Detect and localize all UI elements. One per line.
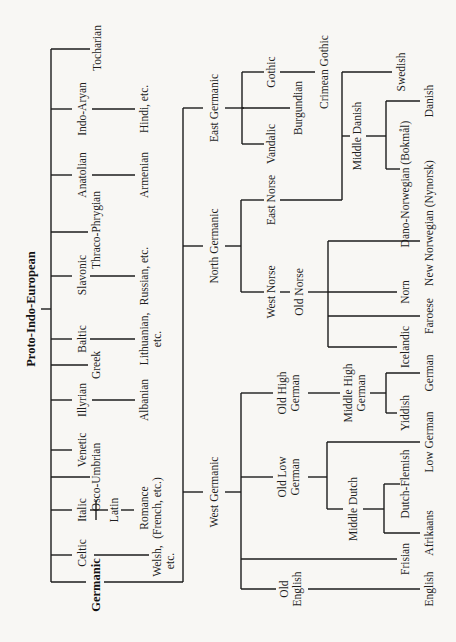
label-illyrian: Illyrian [76,383,89,417]
label-middle-high-german: Middle High [342,363,355,422]
label-faroese: Faroese [423,298,435,334]
label-norn: Norn [399,280,411,304]
label-romance-french: (French, etc.) [151,477,164,539]
label-english: English [423,571,436,606]
label-east-germanic: East Germanic [208,74,220,142]
label-baltic: Baltic [76,325,88,352]
label-welsh: Welsh, [151,545,164,576]
label-gothic: Gothic [265,56,277,87]
label-middle-danish: Middle Danish [351,101,363,170]
label-welsh-etc: etc. [164,553,176,569]
label-middle-high-german-2: German [355,374,367,411]
label-slavonic: Slavonic [76,255,88,295]
label-west-norse: West Norse [265,265,277,318]
label-hindi: Hindi, etc. [138,85,151,133]
language-family-tree: Proto-Indo-European Tocharian Indo-Aryan… [0,0,456,642]
label-armenian: Armenian [138,152,150,198]
label-lithuanian-etc: etc. [151,331,163,347]
label-new-norwegian: New Norwegian (Nynorsk) [423,160,436,286]
label-icelandic: Icelandic [399,326,411,368]
label-low-german: Low German [423,411,435,472]
label-anatolian: Anatolian [76,152,88,198]
label-danish: Danish [423,84,435,117]
label-albanian: Albanian [138,379,150,421]
label-old-high-german-2: German [289,374,301,411]
label-swedish: Swedish [395,52,407,91]
label-lithuanian: Lithuanian, [138,313,151,366]
label-old-high-german: Old High [276,371,289,414]
label-north-germanic: North Germanic [208,208,220,283]
label-dano-norwegian: Dano-Norwegian (Bokmål) [399,120,412,247]
label-burgundian: Burgundian [292,81,305,135]
label-thraco-phrygian: Thraco-Phrygian [90,191,103,269]
label-old-norse: Old Norse [293,268,305,316]
label-crimean-gothic: Crimean Gothic [318,35,330,109]
label-west-germanic: West Germanic [208,457,220,528]
label-old-english: Old [278,580,290,598]
label-venetic: Venetic [76,433,88,467]
label-tocharian: Tocharian [91,25,103,71]
label-old-low-german-2: German [289,458,301,495]
root-title: Proto-Indo-European [24,251,38,367]
label-german: German [423,354,435,391]
label-yiddish: Yiddish [399,395,411,431]
tree-diagram: Proto-Indo-European Tocharian Indo-Aryan… [0,0,456,642]
label-east-norse: East Norse [265,175,277,225]
label-old-low-german: Old Low [276,456,288,498]
label-old-english-2: English [291,571,304,606]
label-russian: Russian, etc. [138,247,151,306]
label-afrikaans: Afrikaans [423,510,435,556]
label-germanic: Germanic [89,558,103,612]
label-dutch-flemish: Dutch-Flemish [399,449,411,518]
label-vandalic: Vandalic [265,124,277,164]
label-indo-aryan: Indo-Aryan [76,82,89,136]
label-greek: Greek [90,351,102,379]
label-frisian: Frisian [399,543,411,575]
label-celtic: Celtic [76,539,88,566]
tree-labels: Proto-Indo-European Tocharian Indo-Aryan… [24,25,436,612]
label-latin: Latin [108,498,120,523]
label-middle-dutch: Middle Dutch [347,477,359,541]
label-osco-umbrian: Osco-Umbrian [90,443,102,512]
label-italic: Italic [76,498,88,522]
label-romance: Romance [138,486,150,529]
